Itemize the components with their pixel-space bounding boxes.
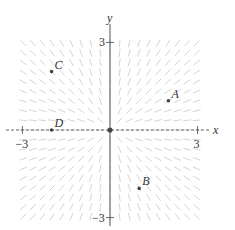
- slope-segment: [184, 167, 190, 170]
- slope-segment: [138, 40, 140, 47]
- slope-segment: [155, 120, 162, 121]
- slope-segment: [59, 79, 64, 84]
- slope-segment: [80, 59, 83, 66]
- slope-segment: [20, 70, 26, 74]
- slope-segment: [175, 204, 180, 209]
- slope-segment: [184, 80, 190, 84]
- slope-segment: [165, 167, 171, 171]
- slope-segment: [30, 90, 36, 93]
- slope-segment: [30, 167, 36, 170]
- slope-segment: [39, 148, 46, 150]
- slope-segment: [128, 165, 131, 171]
- slope-segment: [128, 175, 131, 182]
- slope-segment: [39, 139, 46, 140]
- slope-segment: [80, 194, 83, 201]
- x-axis-label: x: [212, 123, 219, 137]
- slope-segment: [70, 194, 74, 200]
- slope-segment: [184, 158, 191, 161]
- slope-segment: [40, 80, 46, 84]
- slope-segment: [79, 69, 82, 75]
- slope-segment: [29, 110, 36, 112]
- slope-segment: [185, 205, 190, 210]
- slope-segment: [156, 60, 160, 66]
- slope-segment: [39, 120, 46, 121]
- slope-segment: [70, 59, 74, 65]
- slope-field-figure: −333−3 x y ABCD: [0, 0, 235, 230]
- slope-segment: [155, 148, 162, 151]
- y-tick-label: 3: [99, 35, 105, 49]
- slope-segment: [165, 80, 171, 85]
- slope-segment: [155, 109, 162, 112]
- slope-segment: [184, 60, 189, 65]
- slope-segment: [165, 157, 171, 160]
- slope-segment: [20, 176, 26, 180]
- slope-segment: [49, 99, 55, 102]
- slope-segment: [68, 139, 75, 141]
- slope-segment: [68, 109, 74, 112]
- slope-segment: [79, 166, 83, 172]
- slope-segment: [155, 139, 162, 140]
- slope-segment: [80, 50, 83, 57]
- slope-segment: [128, 59, 130, 66]
- slope-segment: [40, 204, 45, 209]
- slope-segment: [194, 176, 200, 180]
- slope-segment: [79, 99, 84, 104]
- slope-segment: [21, 41, 26, 46]
- slope-segment: [138, 213, 140, 220]
- slope-segment: [49, 167, 55, 171]
- slope-segment: [193, 110, 200, 112]
- slope-segment: [100, 184, 101, 191]
- slope-segment: [89, 88, 92, 94]
- slope-segment: [184, 70, 190, 74]
- slope-segment: [90, 40, 92, 47]
- slope-segment: [175, 185, 180, 190]
- slope-segment: [79, 79, 83, 85]
- slope-segment: [100, 78, 101, 85]
- slope-segment: [29, 139, 36, 140]
- slope-segment: [184, 186, 190, 190]
- slope-segment: [100, 49, 101, 56]
- slope-segment: [70, 204, 73, 210]
- slope-segment: [78, 119, 85, 121]
- slope-field-plot: −333−3 x y ABCD: [0, 0, 235, 230]
- slope-segment: [88, 138, 94, 141]
- slope-segment: [88, 147, 93, 152]
- slope-segment: [30, 158, 37, 161]
- slope-segment: [20, 167, 27, 170]
- slope-segment: [70, 50, 73, 56]
- slope-segment: [69, 69, 73, 75]
- slope-segment: [184, 90, 190, 93]
- slope-segment: [20, 100, 27, 102]
- slope-segment: [60, 50, 64, 56]
- slope-segment: [184, 148, 191, 150]
- slope-segment: [69, 79, 73, 85]
- slope-segment: [39, 110, 46, 112]
- point-label-b: B: [142, 174, 150, 188]
- slope-segment: [137, 69, 140, 75]
- slope-segment: [128, 204, 130, 211]
- slope-segment: [156, 195, 160, 201]
- slope-segment: [137, 175, 141, 181]
- slope-segment: [99, 108, 102, 114]
- slope-segment: [136, 99, 141, 104]
- slope-segment: [80, 204, 83, 211]
- slope-segment: [155, 89, 161, 93]
- slope-segment: [145, 139, 152, 141]
- slope-segment: [119, 98, 121, 105]
- slope-segment: [30, 186, 36, 190]
- slope-segment: [69, 166, 74, 171]
- slope-segment: [29, 120, 36, 121]
- slope-segment: [119, 69, 120, 76]
- slope-segment: [50, 40, 54, 46]
- slope-segment: [89, 78, 92, 85]
- slope-segment: [147, 50, 150, 56]
- slope-segment: [90, 194, 92, 201]
- slope-segment: [99, 88, 101, 95]
- slope-segment: [175, 60, 180, 65]
- slope-segment: [194, 60, 200, 64]
- slope-segment: [39, 100, 46, 103]
- slope-segment: [59, 99, 65, 103]
- slope-segment: [128, 88, 131, 94]
- slope-segment: [119, 155, 121, 162]
- slope-segment: [99, 146, 102, 152]
